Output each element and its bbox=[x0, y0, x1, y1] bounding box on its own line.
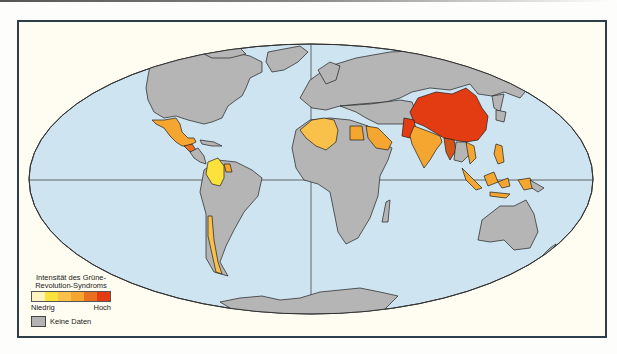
ramp-step-3 bbox=[58, 292, 71, 301]
ramp-step-4 bbox=[71, 292, 84, 301]
legend-low-label: Niedrig bbox=[31, 303, 55, 312]
region-japan bbox=[496, 110, 506, 122]
legend: Intensität des Grüne-Revolution-Syndroms… bbox=[31, 274, 111, 327]
legend-no-data: Keine Daten bbox=[31, 316, 111, 327]
ramp-step-2 bbox=[45, 292, 58, 301]
country-egypt bbox=[350, 126, 364, 140]
ramp-step-5 bbox=[84, 292, 97, 301]
legend-title: Intensität des Grüne-Revolution-Syndroms bbox=[31, 274, 111, 290]
legend-high-label: Hoch bbox=[93, 303, 111, 312]
ramp-step-1 bbox=[32, 292, 45, 301]
legend-no-data-label: Keine Daten bbox=[50, 317, 91, 326]
no-data-swatch bbox=[31, 316, 46, 327]
intensity-color-ramp bbox=[31, 291, 111, 302]
ramp-step-6 bbox=[97, 292, 110, 301]
